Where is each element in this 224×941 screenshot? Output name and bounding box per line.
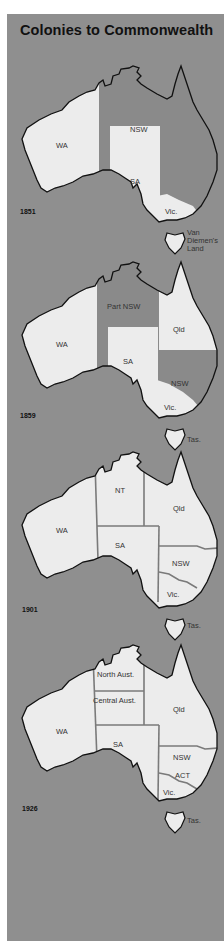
tasmania-label: Tas. [187, 816, 201, 825]
region-central-aust: Central Aust. [93, 696, 136, 705]
region-qld: Qld [173, 504, 185, 513]
region-nsw: NSW [171, 379, 189, 388]
region-vic: Vic. [164, 403, 176, 412]
region-sa: SA [130, 177, 140, 186]
region-wa: WA [56, 727, 68, 736]
region-part-nsw: Part NSW [107, 302, 141, 311]
region-nsw: NSW [172, 559, 190, 568]
region-sa: SA [113, 740, 123, 749]
map-1901: WA NT Qld SA NSW Vic. 1901 Tas. [7, 422, 224, 647]
map-1851: WA NSW SA Vic. 1851 Van Diemen's Land [7, 36, 224, 261]
region-wa: WA [56, 526, 68, 535]
year-label: 1901 [22, 606, 38, 613]
region-vic: Vic. [165, 207, 177, 216]
year-label: 1859 [20, 412, 36, 419]
region-wa: WA [56, 340, 68, 349]
region-sa: SA [115, 541, 125, 550]
region-nt: NT [115, 486, 125, 495]
region-qld: Qld [173, 325, 185, 334]
region-vic: Vic. [167, 590, 179, 599]
map-1926: WA North Aust. Central Aust. Qld SA NSW … [7, 615, 224, 840]
region-wa: WA [56, 141, 68, 150]
region-nsw: NSW [130, 125, 148, 134]
region-vic: Vic. [163, 788, 175, 797]
region-nsw: NSW [173, 753, 191, 762]
region-sa: SA [123, 357, 133, 366]
year-label: 1851 [20, 208, 36, 215]
year-label: 1926 [22, 805, 38, 812]
region-north-aust: North Aust. [97, 670, 134, 679]
region-act: ACT [175, 771, 190, 780]
region-qld: Qld [173, 705, 185, 714]
